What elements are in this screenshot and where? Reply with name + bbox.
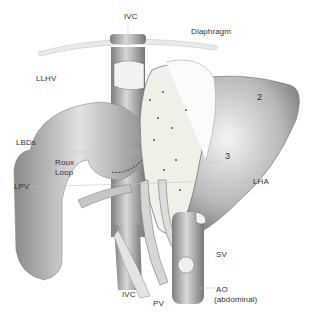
label-roux-loop-2: Loop (55, 168, 73, 177)
label-segment-3: 3 (225, 152, 230, 161)
label-llhv: LLHV (36, 74, 56, 83)
label-diaphragm: Diaphragm (191, 27, 231, 36)
aorta-abdominal (172, 212, 206, 304)
label-ivc-bottom: IVC (122, 290, 136, 299)
label-ao-abdominal: (abdominal) (214, 295, 257, 304)
label-segment-2: 2 (257, 93, 262, 102)
label-sv: SV (216, 250, 227, 259)
label-ivc-top: IVC (124, 12, 138, 21)
label-ao: AO (216, 285, 228, 294)
label-pv: PV (153, 299, 164, 308)
label-lha: LHA (253, 177, 269, 186)
label-lpv: LPV (14, 182, 29, 191)
label-lbds: LBDs (16, 138, 36, 147)
liver-transplant-diagram: IVC Diaphragm LLHV 2 LBDs Roux Loop 3 LP… (0, 0, 316, 315)
label-roux-loop-1: Roux (55, 158, 74, 167)
anatomy-illustration (0, 0, 316, 315)
